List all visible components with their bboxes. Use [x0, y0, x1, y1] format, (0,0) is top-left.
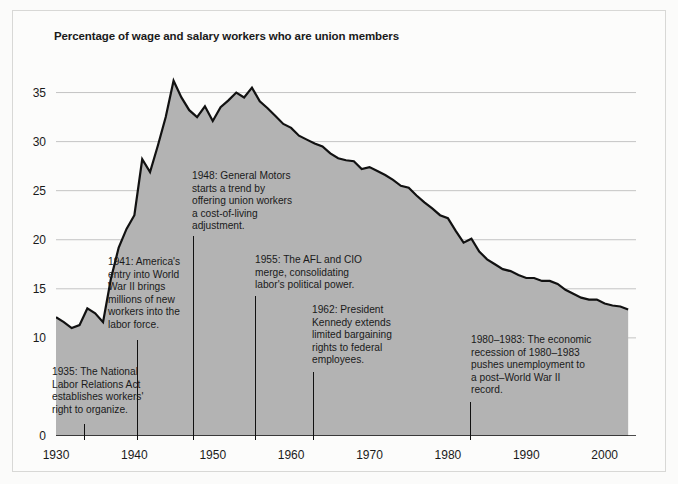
- x-tick-label-2000: 2000: [591, 448, 618, 462]
- x-tick-label-1960: 1960: [278, 448, 305, 462]
- annotation-leader-line-1980: [470, 402, 471, 440]
- x-tick-label-1930: 1930: [43, 448, 70, 462]
- y-tick-label-30: 30: [20, 135, 46, 149]
- x-tick-label-1980: 1980: [435, 448, 462, 462]
- y-tick-label-15: 15: [20, 282, 46, 296]
- y-tick-label-20: 20: [20, 233, 46, 247]
- annotation-1980: 1980–1983: The economic recession of 198…: [471, 334, 591, 397]
- chart-title: Percentage of wage and salary workers wh…: [54, 30, 399, 42]
- chart-figure: Percentage of wage and salary workers wh…: [0, 0, 678, 484]
- annotation-leader-line-1962: [313, 372, 314, 440]
- x-tick-label-1950: 1950: [199, 448, 226, 462]
- y-tick-label-25: 25: [20, 184, 46, 198]
- y-tick-label-0: 0: [20, 429, 46, 443]
- annotation-leader-line-1955: [255, 296, 256, 440]
- annotation-leader-line-1941: [137, 340, 138, 440]
- y-tick-label-35: 35: [20, 86, 46, 100]
- annotation-leader-line-1948: [193, 236, 194, 440]
- annotation-1941: 1941: America's entry into World War II …: [108, 256, 180, 332]
- annotation-1955: 1955: The AFL and CIO merge, consolidati…: [255, 254, 362, 292]
- x-tick-label-1970: 1970: [356, 448, 383, 462]
- annotation-leader-line-1935: [84, 424, 85, 440]
- annotation-1948: 1948: General Motors starts a trend by o…: [192, 170, 292, 233]
- x-tick-label-1990: 1990: [513, 448, 540, 462]
- x-tick-label-1940: 1940: [121, 448, 148, 462]
- annotation-1935: 1935: The National Labor Relations Act e…: [52, 366, 143, 416]
- y-tick-label-10: 10: [20, 331, 46, 345]
- annotation-1962: 1962: President Kennedy extends limited …: [312, 304, 392, 367]
